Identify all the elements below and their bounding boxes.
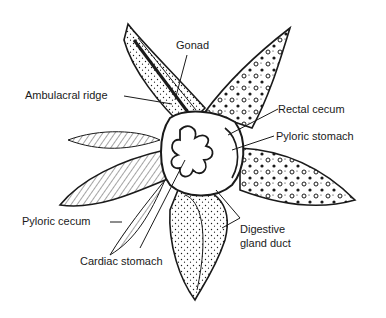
label-rectal-cecum: Rectal cecum [278, 103, 345, 116]
sea-star-anatomy-diagram: Gonad Ambulacral ridge Rectal cecum Pylo… [0, 0, 386, 318]
label-ambulacral-ridge: Ambulacral ridge [25, 89, 108, 102]
label-pyloric-stomach: Pyloric stomach [276, 130, 354, 143]
arm-lower [170, 185, 227, 300]
label-cardiac-stomach: Cardiac stomach [80, 255, 163, 268]
arm-right [240, 148, 355, 205]
label-digestive-gland-duct-line2: gland duct [240, 237, 291, 250]
arm-left [60, 132, 170, 255]
label-pyloric-cecum: Pyloric cecum [22, 215, 90, 228]
label-digestive-gland-duct-line1: Digestive [240, 223, 285, 236]
label-gonad: Gonad [176, 39, 209, 52]
